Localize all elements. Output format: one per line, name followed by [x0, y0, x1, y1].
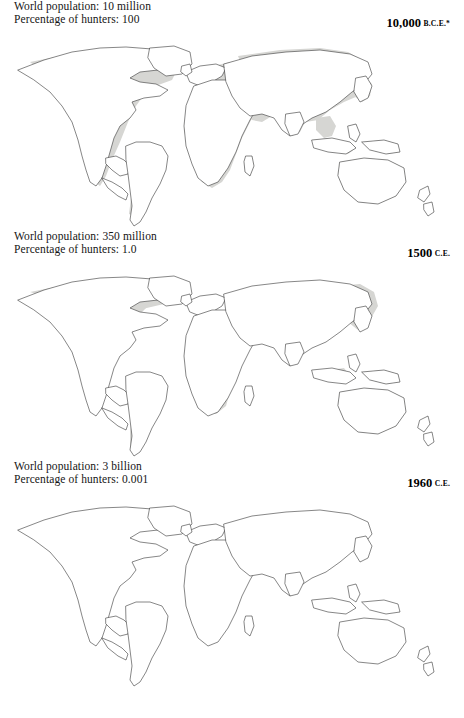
map-panel-1960-ce: World population: 3 billion Percentage o… [0, 460, 464, 690]
population-label-2: World population: 350 million [14, 230, 157, 242]
date-era-2: C.E. [435, 249, 450, 258]
date-number-3: 1960 [407, 476, 432, 490]
world-map-svg-1 [0, 30, 464, 230]
population-label-3: World population: 3 billion [14, 460, 142, 472]
hunters-label-1: Percentage of hunters: 100 [14, 13, 140, 25]
date-label-1: 10,000B.C.E.* [387, 16, 450, 31]
panel-3-labels: World population: 3 billion Percentage o… [0, 460, 464, 490]
hunters-label-2: Percentage of hunters: 1.0 [14, 243, 137, 255]
world-map-svg-2 [0, 260, 464, 460]
world-map-1 [0, 30, 464, 230]
date-number-2: 1500 [407, 246, 432, 260]
hunter-gatherer-maps-figure: World population: 10 million Percentage … [0, 0, 464, 718]
map-panel-1500-ce: World population: 350 million Percentage… [0, 230, 464, 460]
panel-2-labels: World population: 350 million Percentage… [0, 230, 464, 260]
map-3-outlines [18, 506, 434, 686]
date-label-2: 1500C.E. [407, 246, 450, 261]
panel-1-labels: World population: 10 million Percentage … [0, 0, 464, 30]
hunters-label-3: Percentage of hunters: 0.001 [14, 473, 148, 485]
world-map-2 [0, 260, 464, 460]
map-1-outlines [18, 46, 434, 226]
date-era-1: B.C.E.* [423, 19, 450, 28]
map-panel-10000-bce: World population: 10 million Percentage … [0, 0, 464, 230]
map-2-outlines [18, 276, 434, 456]
world-map-svg-3 [0, 490, 464, 690]
date-number-1: 10,000 [387, 16, 421, 30]
date-era-3: C.E. [435, 479, 450, 488]
population-label-1: World population: 10 million [14, 0, 151, 12]
world-map-3 [0, 490, 464, 690]
date-label-3: 1960C.E. [407, 476, 450, 491]
